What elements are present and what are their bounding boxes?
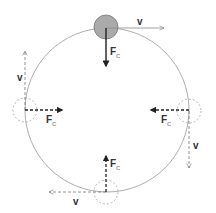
circular-motion-diagram: v FC v FC v FC v FC	[0, 0, 216, 213]
position-top: v FC	[94, 15, 164, 66]
force-label-right: FC	[161, 114, 172, 127]
force-label-top: FC	[110, 46, 121, 59]
circular-path	[25, 28, 189, 192]
force-label-bottom: FC	[110, 158, 121, 171]
force-label-left: FC	[46, 114, 57, 127]
position-left: v FC	[13, 51, 62, 127]
position-bottom: v FC	[49, 156, 121, 207]
position-right: v FC	[151, 99, 201, 168]
velocity-label-left: v	[17, 72, 23, 83]
velocity-label-top: v	[137, 16, 143, 27]
velocity-label-right: v	[193, 140, 199, 151]
velocity-label-bottom: v	[73, 196, 79, 207]
